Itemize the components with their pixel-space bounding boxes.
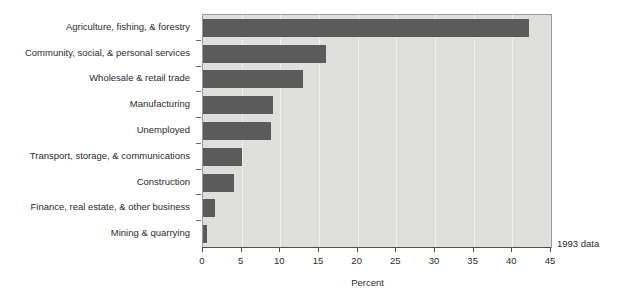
category-label: Agriculture, fishing, & forestry (0, 21, 190, 32)
y-tick-mark (196, 169, 201, 170)
x-tick-label: 35 (458, 255, 488, 266)
x-tick-label: 0 (187, 255, 217, 266)
category-label: Manufacturing (0, 98, 190, 109)
bar-chart-figure: Agriculture, fishing, & forestryCommunit… (0, 0, 617, 301)
gridline (396, 15, 398, 247)
y-tick-mark (196, 40, 201, 41)
x-tick-mark (473, 247, 474, 252)
bar (203, 19, 529, 37)
bar (203, 96, 273, 114)
category-label: Wholesale & retail trade (0, 72, 190, 83)
y-tick-mark (196, 117, 201, 118)
x-tick-mark (395, 247, 396, 252)
y-tick-mark (196, 66, 201, 67)
bar (203, 199, 215, 217)
x-tick-mark (511, 247, 512, 252)
x-tick-label: 20 (342, 255, 372, 266)
gridline (358, 15, 360, 247)
category-label: Transport, storage, & communications (0, 150, 190, 161)
x-tick-label: 10 (264, 255, 294, 266)
bar (203, 45, 326, 63)
y-tick-mark (196, 143, 201, 144)
bar (203, 225, 207, 243)
category-label: Unemployed (0, 124, 190, 135)
y-tick-mark (196, 194, 201, 195)
x-axis-title: Percent (0, 277, 617, 288)
x-tick-mark (202, 247, 203, 252)
x-tick-label: 5 (226, 255, 256, 266)
plot-area (202, 14, 552, 248)
gridline (512, 15, 514, 247)
x-tick-mark (434, 247, 435, 252)
x-tick-mark (241, 247, 242, 252)
x-tick-label: 25 (380, 255, 410, 266)
x-tick-mark (550, 247, 551, 252)
gridline (435, 15, 437, 247)
category-label: Construction (0, 176, 190, 187)
bar (203, 148, 242, 166)
x-axis-line (202, 247, 551, 248)
category-axis-labels: Agriculture, fishing, & forestryCommunit… (0, 14, 196, 246)
y-tick-mark (196, 220, 201, 221)
category-label: Community, social, & personal services (0, 47, 190, 58)
x-tick-mark (279, 247, 280, 252)
bar (203, 122, 271, 140)
x-tick-label: 45 (535, 255, 565, 266)
x-tick-label: 40 (496, 255, 526, 266)
x-tick-mark (357, 247, 358, 252)
bar (203, 174, 234, 192)
category-label: Mining & quarrying (0, 227, 190, 238)
x-axis-title-text: Percent (351, 277, 384, 288)
y-tick-mark (196, 91, 201, 92)
data-year-annotation: 1993 data (557, 238, 599, 249)
x-tick-label: 30 (419, 255, 449, 266)
x-tick-mark (318, 247, 319, 252)
x-tick-label: 15 (303, 255, 333, 266)
bar (203, 70, 303, 88)
category-label: Finance, real estate, & other business (0, 201, 190, 212)
gridline (474, 15, 476, 247)
